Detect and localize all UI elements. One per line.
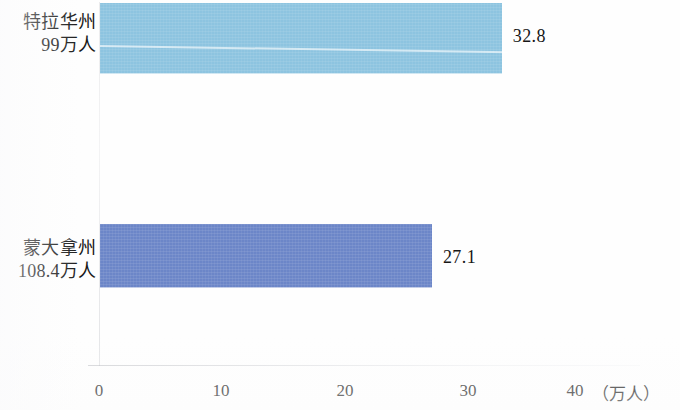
x-tick-0: 0 bbox=[95, 381, 104, 401]
category-label-montana: 蒙大拿州 108.4万人 bbox=[18, 237, 96, 283]
bar-montana bbox=[100, 224, 432, 288]
category-label-delaware: 特拉华州 99万人 bbox=[23, 11, 96, 57]
x-axis-unit-label: （万人） bbox=[592, 380, 660, 405]
bar-montana-fill bbox=[100, 224, 432, 288]
bar-delaware-edge bbox=[100, 73, 502, 74]
bar-montana-edge bbox=[100, 287, 432, 288]
bar-delaware bbox=[100, 3, 502, 74]
bar-chart: 特拉华州 99万人 蒙大拿州 108.4万人 32.8 27.1 0 10 20… bbox=[0, 0, 680, 410]
category-label-delaware-line2: 99万人 bbox=[23, 34, 96, 57]
category-label-delaware-line1: 特拉华州 bbox=[23, 11, 96, 34]
bar-delaware-fill bbox=[100, 3, 502, 74]
x-tick-40: 40 bbox=[567, 381, 584, 401]
category-label-montana-line2: 108.4万人 bbox=[18, 260, 96, 283]
x-axis-line bbox=[88, 365, 640, 366]
x-tick-30: 30 bbox=[460, 381, 477, 401]
value-label-delaware: 32.8 bbox=[513, 26, 546, 47]
value-label-montana: 27.1 bbox=[443, 247, 476, 268]
x-tick-10: 10 bbox=[213, 381, 230, 401]
category-label-montana-line1: 蒙大拿州 bbox=[18, 237, 96, 260]
x-tick-20: 20 bbox=[337, 381, 354, 401]
